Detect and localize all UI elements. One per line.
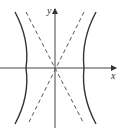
hyperbola-diagram: y x [0, 0, 129, 137]
x-axis-label: x [110, 70, 116, 81]
y-axis-label: y [46, 5, 52, 16]
diagram-canvas: y x [0, 0, 129, 137]
